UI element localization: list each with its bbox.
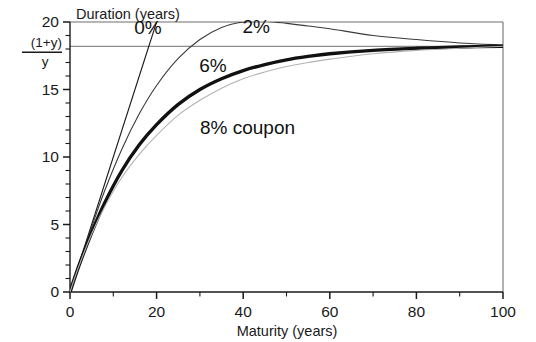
x-axis-title: Maturity (years) (237, 323, 338, 339)
chart-canvas: 05101520 020406080100 0%2%6%8% coupon Du… (0, 0, 536, 342)
y-tick-label: 15 (42, 81, 59, 98)
asymptote-numerator: (1+y) (31, 35, 62, 50)
x-tick-label: 0 (66, 303, 75, 320)
x-tick-label: 40 (235, 303, 253, 320)
y-tick-label: 20 (42, 13, 60, 30)
x-tick-label: 80 (408, 303, 426, 320)
chart-background (0, 0, 536, 342)
annotation-6-: 6% (199, 55, 227, 76)
x-tick-label: 60 (321, 303, 339, 320)
annotation-8-coupon: 8% coupon (200, 117, 295, 138)
y-axis-title: Duration (years) (76, 6, 180, 22)
duration-vs-maturity-chart: 05101520 020406080100 0%2%6%8% coupon Du… (0, 0, 536, 342)
annotation-2-: 2% (242, 16, 270, 37)
y-tick-label: 5 (50, 216, 59, 233)
asymptote-denominator: y (42, 54, 49, 69)
x-tick-label: 100 (490, 303, 516, 320)
y-tick-label: 0 (50, 283, 59, 300)
x-tick-label: 20 (148, 303, 166, 320)
y-tick-label: 10 (42, 148, 60, 165)
